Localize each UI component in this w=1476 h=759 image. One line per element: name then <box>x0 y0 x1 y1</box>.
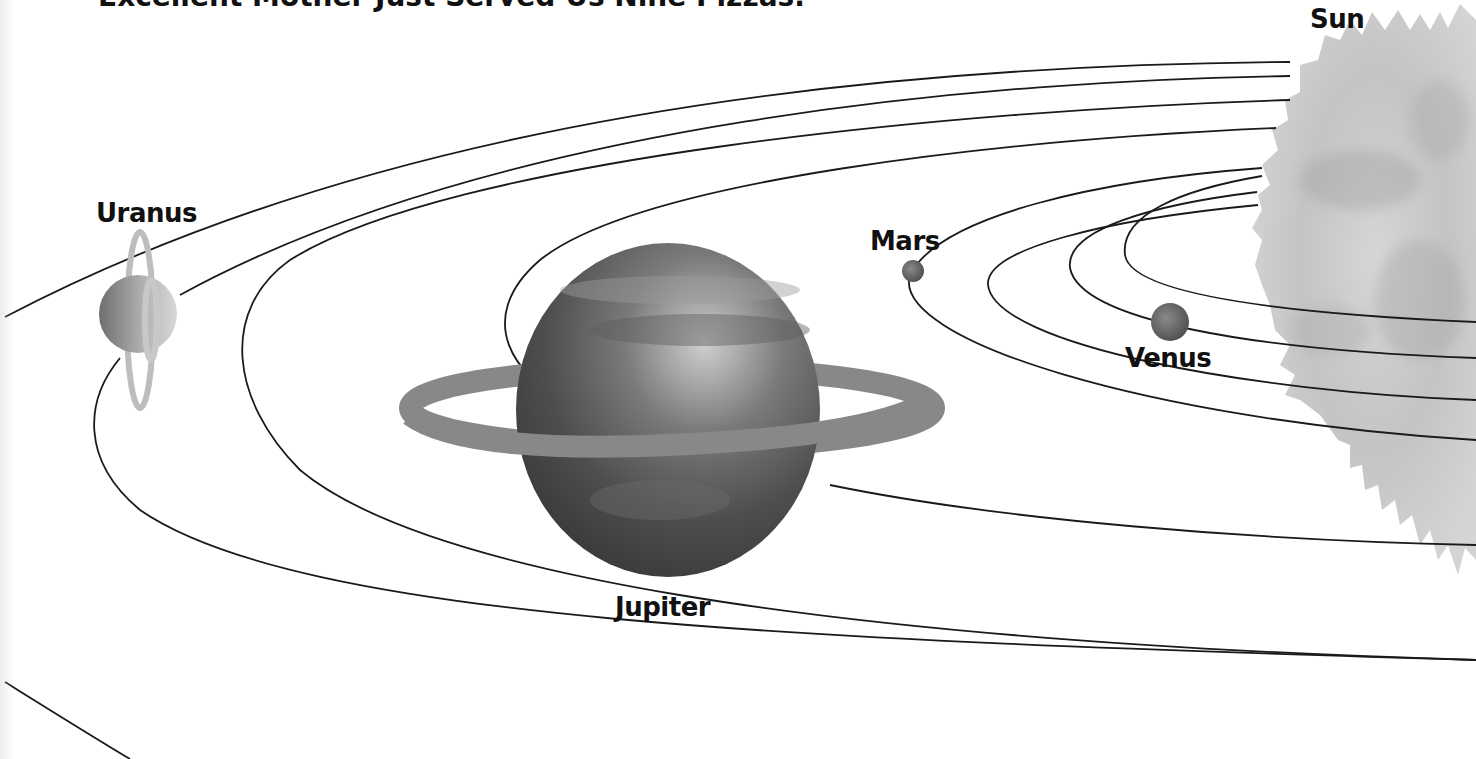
mars-planet <box>902 260 924 282</box>
jupiter-label: Jupiter <box>615 592 710 622</box>
uranus-label: Uranus <box>96 198 197 228</box>
mars-label: Mars <box>870 226 940 256</box>
sun <box>1252 4 1476 575</box>
orbit-outer-lower <box>5 682 130 759</box>
venus-planet <box>1151 303 1189 341</box>
sun-label: Sun <box>1310 4 1364 34</box>
page-edge-shadow <box>0 0 14 759</box>
venus-label: Venus <box>1125 343 1211 373</box>
jupiter-planet <box>410 243 934 577</box>
mnemonic-text: Excellent Mother Just Served Us Nine Piz… <box>98 0 805 13</box>
solar-system-diagram <box>0 0 1476 759</box>
orbit-jupiter-front <box>830 485 1476 545</box>
